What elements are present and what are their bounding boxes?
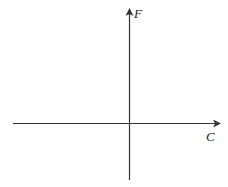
vertical-axis-label: F: [134, 7, 142, 20]
diagram-canvas: F C: [0, 0, 228, 187]
horizontal-axis-label: C: [206, 130, 215, 143]
axes-svg: [0, 0, 228, 187]
